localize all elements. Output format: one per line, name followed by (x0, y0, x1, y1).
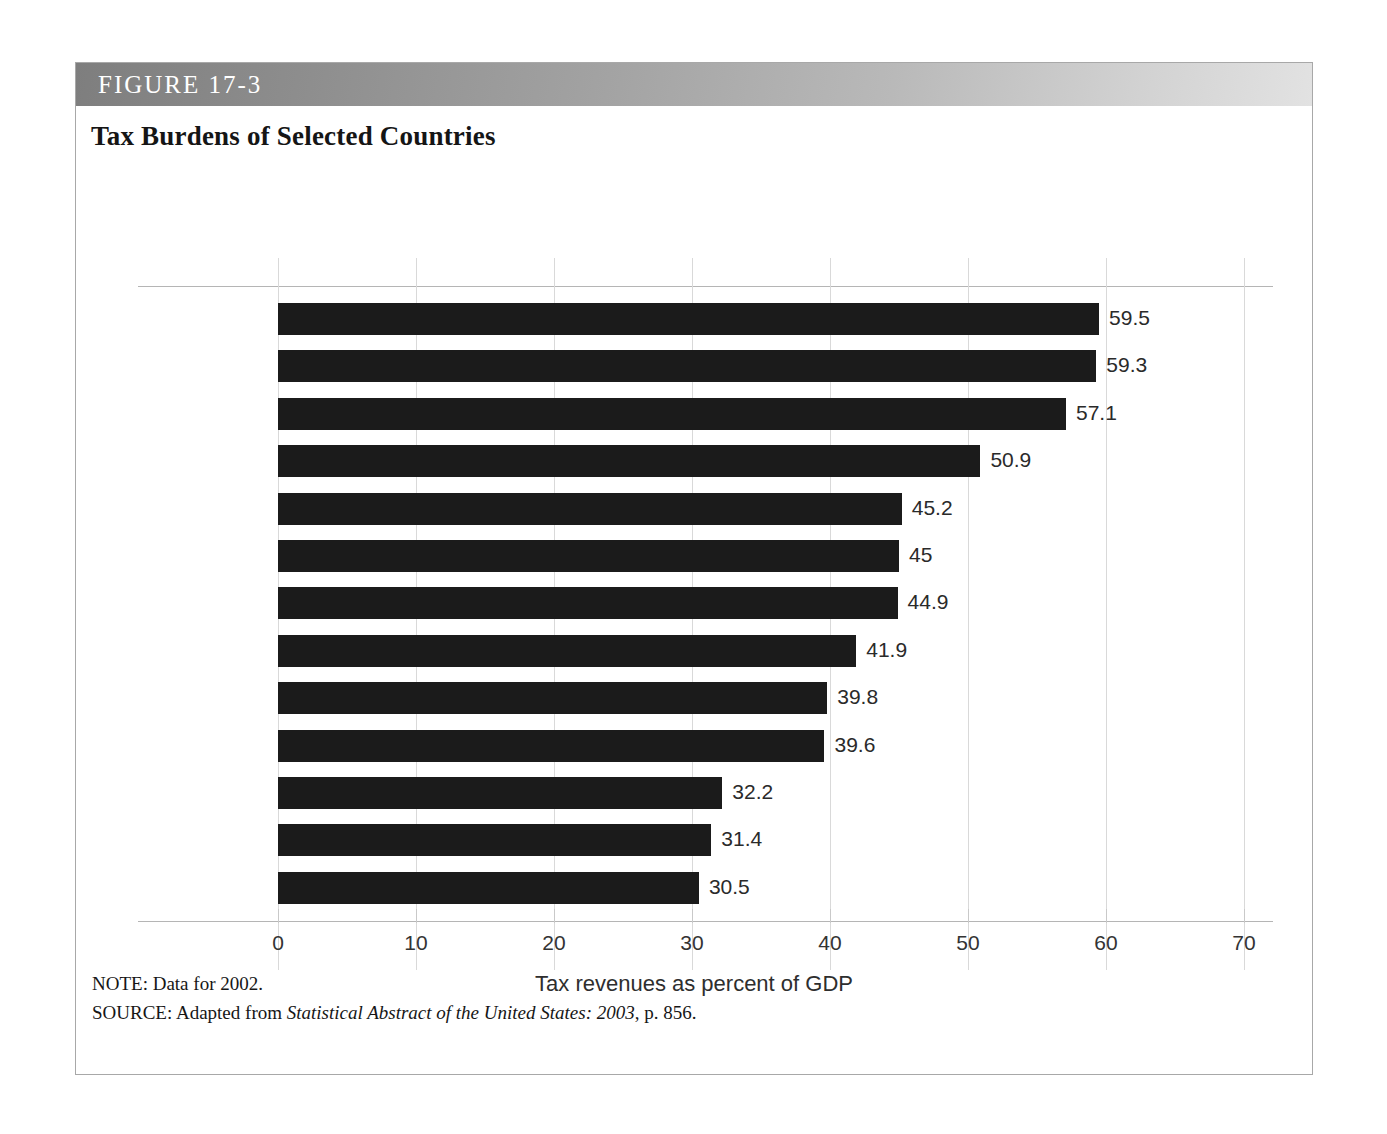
source-prefix: SOURCE: Adapted from (92, 1002, 287, 1023)
source-suffix: , p. 856. (635, 1002, 697, 1023)
x-tick-label: 60 (1094, 931, 1117, 955)
figure-source-line: SOURCE: Adapted from Statistical Abstrac… (92, 998, 696, 1027)
bar (278, 445, 980, 477)
figure-note-line: NOTE: Data for 2002. (92, 969, 696, 998)
x-tick-label: 50 (956, 931, 979, 955)
bar (278, 303, 1099, 335)
bar (278, 493, 902, 525)
figure-header-bar: FIGURE 17-3 (76, 63, 1312, 106)
bar (278, 635, 856, 667)
gridline-70 (1244, 258, 1245, 970)
x-tick-label: 20 (542, 931, 565, 955)
bar-value-label: 39.6 (834, 733, 875, 757)
source-title: Statistical Abstract of the United State… (287, 1002, 635, 1023)
plot-bottom-rule (138, 921, 1273, 922)
bar-value-label: 59.5 (1109, 306, 1150, 330)
bar (278, 682, 827, 714)
x-tick-mark (554, 909, 555, 923)
x-tick-mark (416, 909, 417, 923)
x-tick-label: 30 (680, 931, 703, 955)
bar-value-label: 50.9 (990, 448, 1031, 472)
bar (278, 587, 898, 619)
figure-number-label: FIGURE 17-3 (98, 71, 262, 99)
bar (278, 540, 899, 572)
bar-value-label: 44.9 (908, 590, 949, 614)
bar (278, 350, 1096, 382)
figure-notes: NOTE: Data for 2002. SOURCE: Adapted fro… (92, 969, 696, 1027)
bar-value-label: 57.1 (1076, 401, 1117, 425)
bar-value-label: 30.5 (709, 875, 750, 899)
plot-top-rule (138, 286, 1273, 287)
bar-value-label: 32.2 (732, 780, 773, 804)
bar (278, 730, 824, 762)
x-tick-mark (278, 909, 279, 923)
bar-value-label: 45.2 (912, 496, 953, 520)
x-tick-mark (968, 909, 969, 923)
x-tick-mark (692, 909, 693, 923)
figure-box: FIGURE 17-3 Tax Burdens of Selected Coun… (75, 62, 1313, 1075)
bar (278, 824, 711, 856)
x-tick-label: 40 (818, 931, 841, 955)
bar-value-label: 45 (909, 543, 932, 567)
bar-value-label: 39.8 (837, 685, 878, 709)
bar (278, 398, 1066, 430)
bar-value-label: 31.4 (721, 827, 762, 851)
x-tick-mark (1106, 909, 1107, 923)
x-tick-label: 10 (404, 931, 427, 955)
chart-plot-area: Norway59.5Sweden59.3Denmark57.1France50.… (76, 183, 1312, 943)
bar (278, 872, 699, 904)
figure-title: Tax Burdens of Selected Countries (91, 121, 496, 152)
bar (278, 777, 722, 809)
x-tick-label: 70 (1232, 931, 1255, 955)
x-tick-label: 0 (272, 931, 284, 955)
bar-value-label: 59.3 (1106, 353, 1147, 377)
x-tick-mark (830, 909, 831, 923)
x-tick-mark (1244, 909, 1245, 923)
bar-value-label: 41.9 (866, 638, 907, 662)
